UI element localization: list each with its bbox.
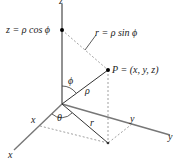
point-label: P = (x, y, z)	[112, 65, 159, 75]
z-axis-label: z	[59, 0, 63, 6]
x-axis-label: x	[8, 150, 12, 160]
phi-arc	[62, 86, 76, 93]
y-tick-label: y	[130, 114, 134, 124]
r-segment	[62, 104, 108, 143]
y-axis-label: y	[168, 132, 172, 142]
theta-arc	[52, 113, 72, 118]
rho-label: ρ	[85, 86, 90, 96]
x-axis	[14, 104, 62, 150]
z-level-point	[60, 28, 64, 32]
phi-label: ϕ	[68, 76, 73, 86]
z-value-label: z = ρ cos ϕ	[6, 25, 50, 35]
y-axis	[62, 104, 170, 135]
spherical-coordinates-diagram: z z = ρ cos ϕ r = ρ sin ϕ P = (x, y, z) …	[0, 0, 177, 167]
projection-point	[107, 142, 110, 145]
r-label: r	[90, 118, 94, 128]
theta-label: θ	[57, 113, 62, 123]
r-value-label: r = ρ sin ϕ	[95, 28, 137, 38]
point-p	[106, 68, 110, 72]
x-tick-label: x	[31, 115, 35, 125]
dashed-y-to-projection	[108, 124, 132, 143]
